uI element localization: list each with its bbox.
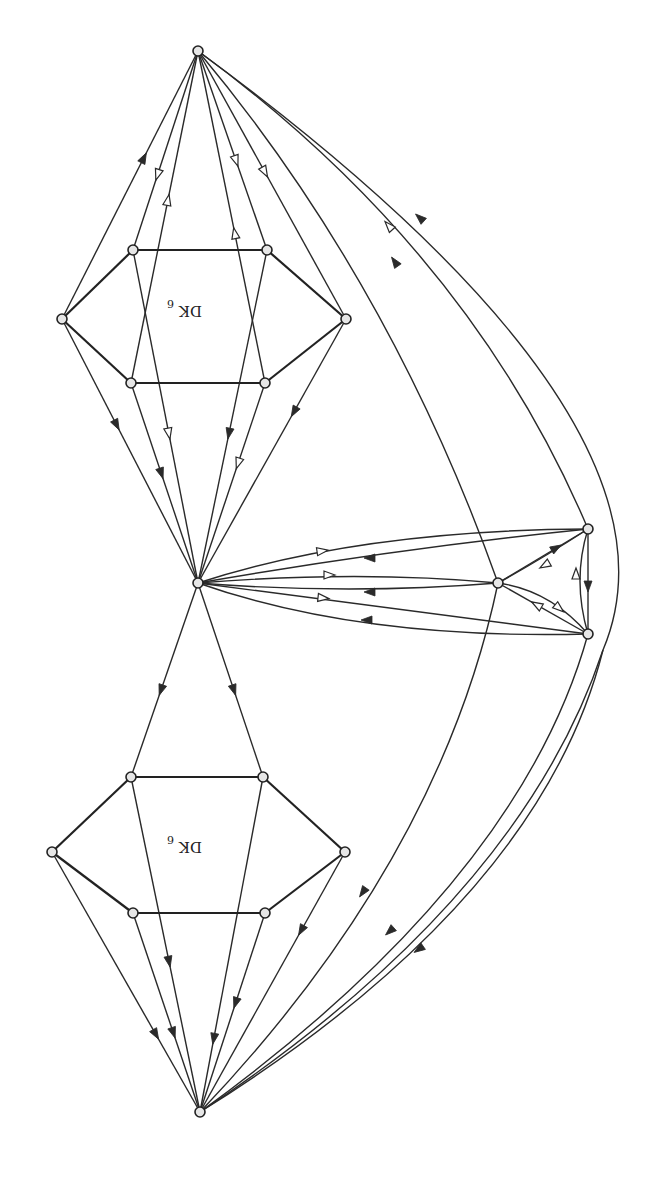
directed-edge <box>200 852 345 1112</box>
arrowhead-icon <box>209 1033 219 1045</box>
directed-edge <box>62 319 198 583</box>
vertex-node-b <box>195 1107 205 1117</box>
arrowhead-icon <box>156 467 167 480</box>
directed-edge <box>133 51 198 250</box>
hexagon-edge <box>52 777 131 852</box>
arrowhead-icon <box>530 599 544 611</box>
arrowhead-icon <box>224 427 234 439</box>
vertex-node-t <box>193 46 203 56</box>
directed-edge <box>200 777 263 1112</box>
arrowhead-icon <box>316 546 328 555</box>
hexagon-edge <box>267 250 346 319</box>
curved-directed-edge <box>198 51 619 1112</box>
arrowhead-icon <box>150 1028 162 1042</box>
arrowhead-icon <box>538 559 552 571</box>
curved-directed-edge <box>198 529 588 583</box>
label-lower-dk6: DK 6 <box>167 833 202 856</box>
vertex-node-u_ul <box>128 245 138 255</box>
directed-edge <box>131 583 198 777</box>
arrowhead-icon <box>164 427 174 439</box>
arrowhead-icon <box>259 165 271 178</box>
vertex-node-l_ur <box>258 772 268 782</box>
arrowhead-icon <box>163 194 173 206</box>
curved-edges <box>198 51 619 1112</box>
hexagon-edge <box>265 319 346 383</box>
hexagon-edge <box>265 852 345 913</box>
curved-directed-edge <box>498 583 588 634</box>
vertex-node-u_ll <box>126 378 136 388</box>
arrowhead-icon <box>231 154 242 167</box>
arrowhead-icon <box>288 405 300 419</box>
vertex-node-q <box>583 629 593 639</box>
directed-edge <box>198 250 267 583</box>
svg-text:DK: DK <box>178 838 202 856</box>
arrowhead-icon <box>230 997 241 1010</box>
hexagon-edge <box>62 250 133 319</box>
arrowhead-icon <box>230 227 240 239</box>
directed-edge <box>62 51 198 319</box>
vertex-node-l_ul <box>126 772 136 782</box>
hexagon-edge <box>52 852 133 913</box>
directed-edge <box>198 583 263 777</box>
directed-edge <box>198 51 346 319</box>
arrowhead-icon <box>356 886 369 900</box>
arrowhead-icon <box>111 418 123 431</box>
vertex-node-c <box>193 578 203 588</box>
curved-directed-edge <box>198 51 588 529</box>
arrowhead-icon <box>388 255 401 269</box>
arrowhead-icon <box>318 593 330 602</box>
arrowhead-icon <box>233 457 244 470</box>
directed-graph-diagram: DK 6 DK 6 <box>0 0 648 1179</box>
arrowhead-icon <box>324 571 335 579</box>
vertex-node-p <box>583 524 593 534</box>
directed-edge <box>131 51 198 383</box>
svg-text:6: 6 <box>167 833 174 846</box>
hexagon-edge <box>62 319 131 383</box>
arrowhead-icon <box>155 684 166 697</box>
arrowhead-icon <box>572 568 580 579</box>
arrowhead-icon <box>295 924 307 938</box>
svg-text:DK: DK <box>178 302 202 320</box>
curved-directed-edge <box>198 583 498 589</box>
curved-directed-edge <box>200 634 588 1112</box>
vertex-node-l_ll <box>128 908 138 918</box>
directed-edge <box>131 777 200 1112</box>
arrowhead-icon <box>584 581 592 592</box>
vertex-node-s <box>493 578 503 588</box>
curved-directed-edge <box>200 650 603 1112</box>
arrowheads <box>111 151 592 1045</box>
vertices <box>47 46 593 1117</box>
hexagon-edge <box>263 777 345 852</box>
arrowhead-icon <box>164 956 174 968</box>
arrowhead-icon <box>138 151 150 164</box>
directed-edge <box>198 383 265 583</box>
arrowhead-icon <box>228 684 239 697</box>
vertex-node-u_ur <box>262 245 272 255</box>
label-upper-dk6: DK 6 <box>167 297 202 320</box>
vertex-node-u_lr <box>260 378 270 388</box>
directed-edge <box>52 852 200 1112</box>
curved-directed-edge <box>198 529 588 583</box>
vertex-node-l_lr <box>260 908 270 918</box>
vertex-node-u_r <box>341 314 351 324</box>
arrowhead-icon <box>168 1026 179 1039</box>
arrowhead-icon <box>152 168 163 181</box>
arrowhead-icon <box>413 211 427 224</box>
vertex-node-l_l <box>47 847 57 857</box>
directed-edge <box>198 319 346 583</box>
svg-text:6: 6 <box>167 297 174 310</box>
curved-directed-edge <box>198 577 498 584</box>
vertex-node-l_r <box>340 847 350 857</box>
vertex-node-u_l <box>57 314 67 324</box>
arrowhead-icon <box>383 925 397 938</box>
